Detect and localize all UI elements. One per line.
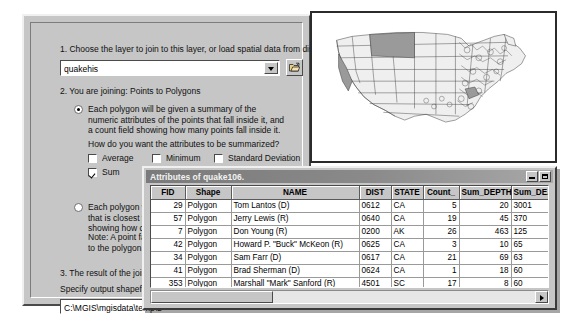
column-header-name[interactable]: NAME — [231, 186, 359, 199]
window-controls — [526, 171, 553, 182]
table-row[interactable]: 29 Polygon Tom Lantos (D) 0612 CA 5 20 3… — [151, 199, 549, 212]
cell-dist: 0625 — [359, 238, 391, 251]
cell-shape: Polygon — [185, 199, 231, 212]
radio-summary-option[interactable] — [74, 105, 83, 114]
cell-count: 21 — [423, 251, 459, 264]
cell-count: 17 — [423, 277, 459, 288]
cell-count: 5 — [423, 199, 459, 212]
cell-sum-depth: 8 — [459, 277, 511, 288]
cell-name: Sam Farr (D) — [231, 251, 359, 264]
cell-state: AK — [391, 225, 423, 238]
checkbox-minimum-label: Minimum — [166, 153, 200, 163]
cell-shape: Polygon — [185, 238, 231, 251]
cell-count: 19 — [423, 212, 459, 225]
cell-count: 3 — [423, 238, 459, 251]
cell-state: CA — [391, 264, 423, 277]
table-row[interactable]: 57 Polygon Jerry Lewis (R) 0640 CA 19 45… — [151, 212, 549, 225]
cell-state: CA — [391, 199, 423, 212]
attribute-table-scroll-area[interactable]: FID Shape NAME DIST STATE Count_ Sum_DEP… — [150, 185, 549, 288]
cell-sum-depth: 463 — [459, 225, 511, 238]
cell-fid: 34 — [151, 251, 185, 264]
cell-sum-death: 63 — [511, 251, 549, 264]
column-header-fid[interactable]: FID — [151, 186, 185, 199]
cell-shape: Polygon — [185, 225, 231, 238]
scrollbar-thumb[interactable] — [151, 291, 273, 303]
checkbox-standard-deviation[interactable] — [214, 154, 223, 163]
cell-name: Don Young (R) — [231, 225, 359, 238]
table-row[interactable]: 34 Polygon Sam Farr (D) 0617 CA 21 69 63 — [151, 251, 549, 264]
column-header-shape[interactable]: Shape — [185, 186, 231, 199]
cell-name: Brad Sherman (D) — [231, 264, 359, 277]
attribute-table-window: Attributes of quake106. FID Shape NAME — [142, 166, 557, 310]
cell-name: Jerry Lewis (R) — [231, 212, 359, 225]
step2-label: 2. You are joining: — [60, 86, 128, 97]
horizontal-scrollbar[interactable] — [150, 290, 549, 304]
browse-folder-button[interactable] — [286, 59, 303, 76]
cell-fid: 57 — [151, 212, 185, 225]
cell-count: 26 — [423, 225, 459, 238]
cell-state: CA — [391, 212, 423, 225]
radio-summary-option-label: Each polygon will be given a summary of … — [88, 104, 288, 136]
attribute-table-title: Attributes of quake106. — [146, 172, 244, 182]
cell-fid: 29 — [151, 199, 185, 212]
cell-dist: 0617 — [359, 251, 391, 264]
checkbox-average[interactable] — [88, 154, 97, 163]
cell-sum-depth: 18 — [459, 264, 511, 277]
column-header-state[interactable]: STATE — [391, 186, 423, 199]
step2-join-type-value: Points to Polygons — [130, 86, 200, 97]
cell-sum-death: 60 — [511, 277, 549, 288]
checkbox-sum[interactable] — [88, 168, 97, 177]
cell-fid: 41 — [151, 264, 185, 277]
table-row[interactable]: 41 Polygon Brad Sherman (D) 0624 CA 1 18… — [151, 264, 549, 277]
summarize-question-label: How do you want the attributes to be sum… — [88, 139, 279, 150]
cell-state: CA — [391, 238, 423, 251]
cell-state: SC — [391, 277, 423, 288]
cell-state: CA — [391, 251, 423, 264]
checkbox-minimum[interactable] — [152, 154, 161, 163]
cell-name: Howard P. "Buck" McKeon (R) — [231, 238, 359, 251]
maximize-button[interactable] — [539, 171, 551, 182]
open-folder-icon — [289, 62, 300, 73]
cell-sum-death: 125 — [511, 225, 549, 238]
arrow-right-icon[interactable] — [535, 291, 548, 303]
highlight-montana — [370, 32, 415, 57]
cell-sum-death: 370 — [511, 212, 549, 225]
column-header-sum-depth[interactable]: Sum_DEPTH — [459, 186, 511, 199]
table-header-row: FID Shape NAME DIST STATE Count_ Sum_DEP… — [151, 186, 549, 199]
column-header-sum-death[interactable]: Sum_DEATH — [511, 186, 549, 199]
table-body: 29 Polygon Tom Lantos (D) 0612 CA 5 20 3… — [151, 199, 549, 288]
table-row[interactable]: 7 Polygon Don Young (R) 0200 AK 26 463 1… — [151, 225, 549, 238]
attribute-table-titlebar[interactable]: Attributes of quake106. — [146, 170, 553, 183]
chevron-down-icon[interactable] — [264, 62, 278, 74]
us-congressional-districts-map — [312, 13, 555, 161]
radio-nearest-option[interactable] — [74, 203, 83, 212]
cell-dist: 0624 — [359, 264, 391, 277]
cell-dist: 0640 — [359, 212, 391, 225]
cell-fid: 7 — [151, 225, 185, 238]
cell-sum-depth: 20 — [459, 199, 511, 212]
cell-shape: Polygon — [185, 277, 231, 288]
screen-root: 1. Choose the layer to join to this laye… — [0, 0, 561, 329]
attribute-table: FID Shape NAME DIST STATE Count_ Sum_DEP… — [151, 186, 549, 288]
layer-combobox[interactable]: quakehis — [60, 60, 280, 76]
checkbox-sum-label: Sum — [102, 167, 119, 177]
minimize-button[interactable] — [526, 171, 538, 182]
cell-shape: Polygon — [185, 264, 231, 277]
cell-dist: 4501 — [359, 277, 391, 288]
cell-name: Marshall "Mark" Sanford (R) — [231, 277, 359, 288]
cell-name: Tom Lantos (D) — [231, 199, 359, 212]
cell-sum-death: 3001 — [511, 199, 549, 212]
table-row[interactable]: 42 Polygon Howard P. "Buck" McKeon (R) 0… — [151, 238, 549, 251]
cell-sum-death: 60 — [511, 264, 549, 277]
cell-fid: 353 — [151, 277, 185, 288]
column-header-count[interactable]: Count_ — [423, 186, 459, 199]
cell-dist: 0612 — [359, 199, 391, 212]
checkbox-average-label: Average — [102, 153, 134, 163]
map-view-panel[interactable] — [310, 11, 557, 163]
cell-dist: 0200 — [359, 225, 391, 238]
table-row[interactable]: 353 Polygon Marshall "Mark" Sanford (R) … — [151, 277, 549, 288]
step1-label: 1. Choose the layer to join to this laye… — [60, 44, 320, 55]
column-header-dist[interactable]: DIST — [359, 186, 391, 199]
cell-sum-depth: 69 — [459, 251, 511, 264]
checkbox-standard-deviation-label: Standard Deviation — [228, 153, 300, 163]
